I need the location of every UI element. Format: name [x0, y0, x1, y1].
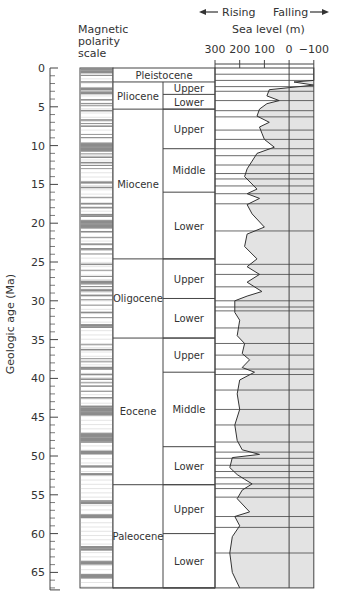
- subepoch-label: Lower: [174, 221, 205, 232]
- epoch-label: Pliocene: [117, 91, 159, 102]
- epoch-label: Paleocene: [113, 531, 164, 542]
- subepoch-label: Upper: [174, 83, 205, 94]
- magnetic-polarity-column: [80, 68, 113, 588]
- subepoch-label: Lower: [174, 556, 205, 567]
- svg-text:scale: scale: [78, 47, 107, 60]
- sea-level-panel: [215, 68, 314, 588]
- epoch-label: Eocene: [120, 406, 157, 417]
- age-tick-label: 40: [31, 372, 45, 385]
- age-axis-title: Geologic age (Ma): [4, 274, 17, 374]
- sea-level-tick-label: 100: [254, 43, 275, 56]
- age-tick-label: 0: [38, 62, 45, 75]
- svg-text:Rising: Rising: [222, 6, 255, 19]
- age-tick-label: 15: [31, 178, 45, 191]
- age-tick-label: 20: [31, 217, 45, 230]
- age-tick-label: 25: [31, 256, 45, 269]
- rising-falling-legend: RisingFalling: [199, 6, 329, 19]
- subepoch-label: Middle: [172, 404, 205, 415]
- epoch-label: Pleistocene: [135, 70, 192, 81]
- epoch-label: Miocene: [117, 179, 159, 190]
- age-tick-label: 35: [31, 334, 45, 347]
- epoch-column: PleistocenePlioceneUpperLowerMioceneUppe…: [113, 68, 215, 588]
- sea-level-tick-label: 300: [205, 43, 226, 56]
- sea-level-title: Sea level (m): [232, 23, 305, 36]
- polarity-scale-label: Magneticpolarityscale: [78, 23, 128, 60]
- age-tick-label: 50: [31, 450, 45, 463]
- subepoch-label: Upper: [174, 274, 205, 285]
- age-axis: 05101520253035404550556065Geologic age (…: [4, 62, 60, 590]
- subepoch-label: Upper: [174, 504, 205, 515]
- age-tick-label: 5: [38, 101, 45, 114]
- sea-level-axis: 3002001000−100Sea level (m): [205, 23, 329, 68]
- age-tick-label: 45: [31, 411, 45, 424]
- sea-level-tick-label: 0: [286, 43, 293, 56]
- subepoch-label: Lower: [174, 97, 205, 108]
- age-tick-label: 30: [31, 295, 45, 308]
- epoch-label: Oligocene: [113, 293, 163, 304]
- subepoch-label: Upper: [174, 124, 205, 135]
- subepoch-label: Lower: [174, 461, 205, 472]
- age-tick-label: 10: [31, 140, 45, 153]
- age-tick-label: 60: [31, 528, 45, 541]
- svg-text:Falling: Falling: [273, 6, 308, 19]
- age-tick-label: 65: [31, 566, 45, 579]
- subepoch-label: Middle: [172, 165, 205, 176]
- age-tick-label: 55: [31, 489, 45, 502]
- geologic-sea-level-chart: 05101520253035404550556065Geologic age (…: [0, 0, 339, 603]
- subepoch-label: Lower: [174, 313, 205, 324]
- sea-level-tick-label: −100: [299, 43, 329, 56]
- sea-level-tick-label: 200: [229, 43, 250, 56]
- subepoch-label: Upper: [174, 350, 205, 361]
